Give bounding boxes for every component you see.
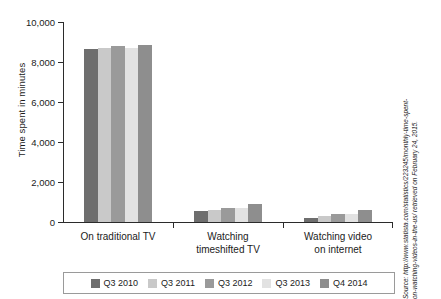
category-label-line: On traditional TV	[63, 230, 173, 243]
legend-swatch-icon	[320, 279, 329, 288]
bar	[304, 218, 318, 222]
legend-label: Q3 2010	[104, 278, 139, 288]
y-tick-label: 6,000	[31, 97, 55, 108]
category-separator	[283, 222, 284, 228]
category-separator	[392, 222, 393, 228]
legend-label: Q3 2012	[218, 278, 253, 288]
bar	[194, 211, 208, 222]
category-label: On traditional TV	[63, 230, 173, 243]
y-tick-mark	[58, 142, 63, 143]
y-tick-label: 8,000	[31, 57, 55, 68]
plot-area: 02,0004,0006,0008,00010,000	[63, 22, 393, 222]
y-tick-label: 2,000	[31, 177, 55, 188]
y-tick-mark	[58, 182, 63, 183]
y-axis-line	[63, 22, 64, 222]
bar	[248, 204, 262, 222]
legend-item[interactable]: Q4 2014	[320, 278, 368, 288]
bar-group	[304, 22, 372, 222]
legend-label: Q3 2011	[161, 278, 195, 288]
legend-item[interactable]: Q3 2013	[262, 278, 310, 288]
y-tick-mark	[58, 102, 63, 103]
category-separator	[173, 222, 174, 228]
bar-group	[84, 22, 152, 222]
bar	[221, 208, 235, 222]
legend-swatch-icon	[205, 279, 214, 288]
bar	[98, 48, 112, 222]
bar-group	[194, 22, 262, 222]
legend-item[interactable]: Q3 2012	[205, 278, 253, 288]
y-tick-label: 10,000	[26, 17, 55, 28]
y-tick-mark	[58, 62, 63, 63]
legend-swatch-icon	[262, 279, 271, 288]
bar	[331, 214, 345, 222]
source-line-1: Source: http://www.statista.com/statisti…	[402, 99, 409, 299]
bar	[84, 49, 98, 222]
y-tick-label: 4,000	[31, 137, 55, 148]
category-label-line: Watching	[173, 230, 283, 243]
category-label-line: on internet	[283, 243, 393, 256]
source-note: Source: http://www.statista.com/statisti…	[402, 0, 436, 299]
category-label: Watching videoon internet	[283, 230, 393, 256]
bar	[345, 214, 359, 222]
legend-label: Q3 2013	[275, 278, 310, 288]
bar	[235, 208, 249, 222]
bar-chart-figure: Time spent in minutes 02,0004,0006,0008,…	[0, 0, 441, 299]
y-tick-mark	[58, 222, 63, 223]
legend-swatch-icon	[148, 279, 157, 288]
chart-legend: Q3 2010Q3 2011Q3 2012Q3 2013Q4 2014	[63, 272, 395, 294]
legend-item[interactable]: Q3 2010	[91, 278, 139, 288]
bar	[318, 216, 332, 222]
legend-item[interactable]: Q3 2011	[148, 278, 195, 288]
bar	[125, 48, 139, 222]
category-label: Watchingtimeshifted TV	[173, 230, 283, 256]
category-label-line: timeshifted TV	[173, 243, 283, 256]
bar	[358, 210, 372, 222]
category-label-line: Watching video	[283, 230, 393, 243]
source-line-2: on-watching-videos-in-the-us/ retrieved …	[411, 0, 420, 299]
bar	[111, 46, 125, 222]
legend-label: Q4 2014	[333, 278, 368, 288]
x-axis-line	[63, 222, 393, 223]
bar	[138, 45, 152, 222]
y-axis-title: Time spent in minutes	[16, 40, 30, 180]
y-tick-mark	[58, 22, 63, 23]
y-tick-label: 0	[50, 217, 55, 228]
legend-swatch-icon	[91, 279, 100, 288]
bar	[208, 210, 222, 222]
